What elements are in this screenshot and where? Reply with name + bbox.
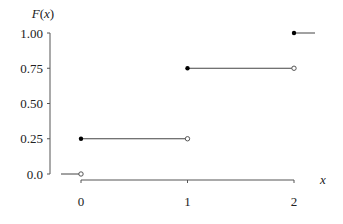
x-axis: 012 (78, 180, 298, 209)
y-tick-label: 0.75 (20, 61, 43, 76)
closed-point (185, 66, 189, 70)
step-points (79, 31, 296, 176)
x-tick-label: 2 (291, 194, 298, 209)
x-tick-label: 0 (78, 194, 85, 209)
closed-point (292, 31, 296, 35)
step-segments (61, 33, 315, 174)
open-point (185, 137, 189, 141)
y-tick-label: 0.50 (20, 96, 43, 111)
open-point (79, 172, 83, 176)
y-tick-label: 0.25 (20, 131, 43, 146)
y-axis: 0.00.250.500.751.00 (20, 26, 50, 182)
open-point (292, 66, 296, 70)
x-tick-label: 1 (184, 194, 191, 209)
y-axis-title: F(x) (31, 6, 54, 21)
y-tick-label: 0.0 (27, 167, 43, 182)
closed-point (79, 137, 83, 141)
x-axis-title: x (319, 172, 326, 187)
cdf-step-chart: 0.00.250.500.751.00 012 F(x) x (0, 0, 343, 224)
y-tick-label: 1.00 (20, 26, 43, 41)
